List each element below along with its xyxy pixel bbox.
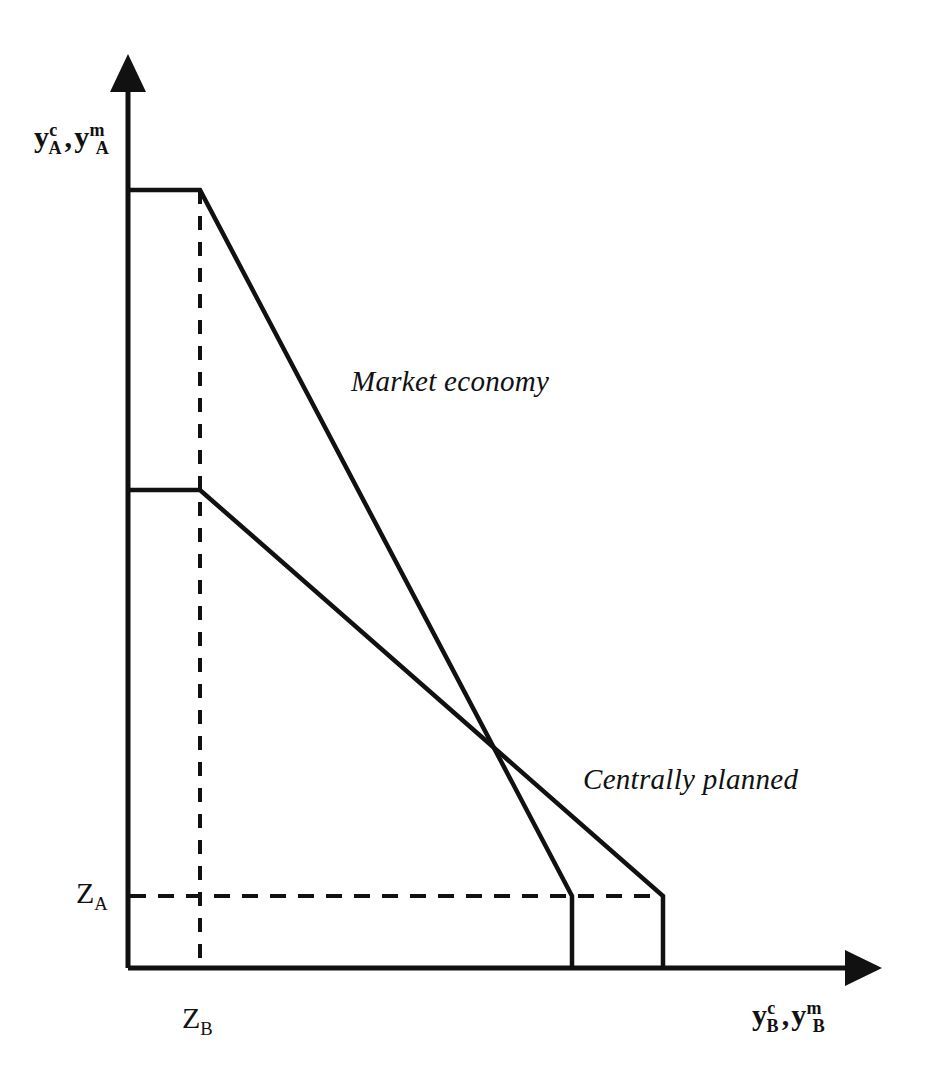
x-axis-label: ycB,ymB bbox=[752, 1000, 827, 1030]
y-axis-label-sub2: A bbox=[96, 138, 109, 158]
plot-canvas bbox=[0, 0, 932, 1083]
zb-base: Z bbox=[182, 1001, 200, 1034]
za-subscript: A bbox=[94, 893, 107, 914]
y-axis-label: ycA,ymA bbox=[34, 122, 111, 152]
x-axis-label-sup2: m bbox=[807, 998, 822, 1018]
market-economy-curve bbox=[128, 190, 572, 968]
market-economy-annotation: Market economy bbox=[351, 367, 549, 396]
centrally-planned-annotation: Centrally planned bbox=[583, 765, 798, 794]
y-axis-arrowhead bbox=[110, 54, 146, 92]
x-axis-label-comma: , bbox=[782, 998, 790, 1031]
y-axis-tick-label-za: ZA bbox=[76, 878, 108, 908]
y-axis-label-base1: y bbox=[34, 120, 49, 153]
y-axis-label-sup2: m bbox=[90, 120, 105, 140]
za-base: Z bbox=[76, 876, 94, 909]
x-axis-label-sup1: c bbox=[767, 998, 775, 1018]
x-axis-tick-label-zb: ZB bbox=[182, 1003, 213, 1033]
zb-subscript: B bbox=[200, 1018, 212, 1039]
x-axis-label-sub1: B bbox=[766, 1016, 778, 1036]
y-axis-label-comma: , bbox=[65, 120, 73, 153]
x-axis-label-base2: y bbox=[791, 998, 806, 1031]
x-axis-arrowhead bbox=[845, 950, 882, 986]
figure-container: ycA,ymA ycB,ymB ZA ZB Market economy Cen… bbox=[0, 0, 932, 1083]
y-axis-label-sub1: A bbox=[48, 138, 61, 158]
y-axis-label-sup1: c bbox=[49, 120, 57, 140]
y-axis-label-base2: y bbox=[74, 120, 89, 153]
x-axis-label-sub2: B bbox=[813, 1016, 825, 1036]
x-axis-label-base1: y bbox=[752, 998, 767, 1031]
